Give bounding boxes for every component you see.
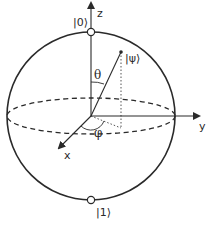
phi-label: φ xyxy=(94,126,102,140)
bloch-sphere-diagram: z y x |0⟩ |1⟩ |ψ⟩ θ φ xyxy=(0,0,215,232)
theta-label: θ xyxy=(94,68,101,82)
theta-arc xyxy=(91,82,104,84)
x-axis xyxy=(59,116,91,148)
z-axis-label: z xyxy=(97,7,103,20)
psi-state-label: |ψ⟩ xyxy=(125,52,140,65)
y-axis-label: y xyxy=(199,120,206,133)
x-axis-label: x xyxy=(64,149,71,162)
psi-vector xyxy=(91,52,121,116)
south-pole-label: |1⟩ xyxy=(96,206,111,219)
north-pole-label: |0⟩ xyxy=(73,16,88,29)
south-pole-marker xyxy=(87,196,94,203)
north-pole-marker xyxy=(87,28,94,35)
